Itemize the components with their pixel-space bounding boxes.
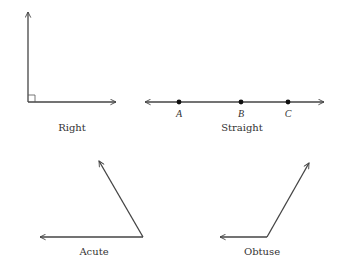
acute-angle: Acute	[40, 161, 143, 257]
right-angle-label: Right	[58, 122, 86, 133]
point-c	[286, 100, 291, 105]
acute-angle-label: Acute	[78, 246, 108, 257]
obtuse-angle-label: Obtuse	[244, 246, 280, 257]
obtuse-angle: Obtuse	[220, 163, 309, 257]
straight-angle: A B C Straight	[145, 100, 324, 133]
diagram-svg: Right A B C Straight Acute Obtuse	[0, 0, 343, 261]
point-b-label: B	[238, 108, 244, 119]
acute-angle-slanted-ray	[99, 161, 143, 237]
point-a-label: A	[175, 108, 183, 119]
right-angle-marker	[28, 95, 35, 102]
right-angle: Right	[28, 12, 116, 133]
point-a	[177, 100, 182, 105]
point-b	[239, 100, 244, 105]
point-c-label: C	[285, 108, 292, 119]
obtuse-angle-slanted-ray	[267, 163, 309, 237]
straight-angle-label: Straight	[221, 122, 263, 133]
angle-types-diagram: Right A B C Straight Acute Obtuse	[0, 0, 343, 261]
